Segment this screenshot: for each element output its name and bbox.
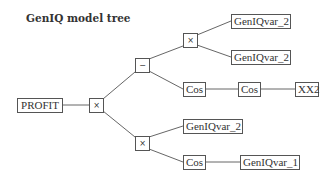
node-cos-1: Cos xyxy=(183,82,206,97)
node-xx2: XX2 xyxy=(295,82,319,97)
node-cos-2: Cos xyxy=(238,82,261,97)
node-multiply-lower: × xyxy=(135,136,150,151)
node-genIQvar-2-middle: GenIQvar_2 xyxy=(231,50,291,65)
node-genIQvar-1: GenIQvar_1 xyxy=(240,155,300,170)
node-cos-3: Cos xyxy=(183,155,206,170)
node-multiply-root: × xyxy=(89,98,104,113)
edge-lower-mult-to-cos-3 xyxy=(149,149,183,162)
edge-minus-to-upper-mult xyxy=(149,46,183,59)
edge-root-op-to-minus xyxy=(103,72,135,99)
edge-upper-mult-to-leaf-2 xyxy=(197,45,231,57)
edge-root-op-to-lower-mult xyxy=(103,111,135,137)
edge-upper-mult-to-leaf-1 xyxy=(197,21,231,35)
edge-minus-to-cos-1 xyxy=(149,71,183,89)
node-genIQvar-2-top: GenIQvar_2 xyxy=(231,14,291,29)
node-multiply-upper: × xyxy=(183,33,198,48)
node-minus: − xyxy=(135,58,150,73)
node-genIQvar-2-lower: GenIQvar_2 xyxy=(183,119,243,134)
edge-lower-mult-to-leaf xyxy=(149,126,183,137)
node-profit: PROFIT xyxy=(17,98,63,113)
